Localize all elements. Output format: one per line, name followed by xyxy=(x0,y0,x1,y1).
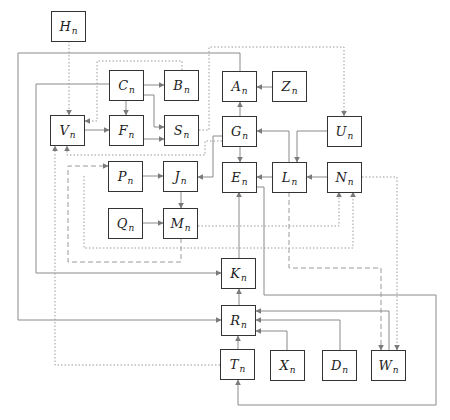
node-v: Vn xyxy=(50,115,85,146)
node-label: G xyxy=(231,124,241,139)
node-subscript: n xyxy=(393,365,399,375)
node-subscript: n xyxy=(184,85,190,95)
node-u: Un xyxy=(327,116,362,147)
node-subscript: n xyxy=(184,130,190,140)
node-k: Kn xyxy=(221,258,256,289)
node-label: N xyxy=(335,170,346,185)
node-subscript: n xyxy=(127,176,133,186)
node-m: Mn xyxy=(163,208,198,239)
node-s: Sn xyxy=(164,115,199,146)
node-label: M xyxy=(170,216,183,231)
node-subscript: n xyxy=(348,131,354,141)
node-label: F xyxy=(119,123,128,138)
node-subscript: n xyxy=(241,273,247,283)
node-x: Xn xyxy=(270,350,305,381)
node-label: Z xyxy=(282,79,291,94)
node-z: Zn xyxy=(272,71,307,102)
node-label: T xyxy=(230,357,239,372)
node-subscript: n xyxy=(290,365,296,375)
edge-n-to-w xyxy=(362,177,397,350)
node-subscript: n xyxy=(70,130,76,140)
node-subscript: n xyxy=(72,26,78,36)
node-label: H xyxy=(59,19,70,34)
node-label: S xyxy=(174,123,183,138)
node-label: W xyxy=(378,358,391,373)
node-subscript: n xyxy=(181,176,187,186)
node-subscript: n xyxy=(128,223,134,233)
node-subscript: n xyxy=(241,320,247,330)
node-label: K xyxy=(230,266,240,281)
edge-m-to-n xyxy=(198,192,339,226)
edge-c-to-s xyxy=(144,95,164,127)
edge-l-to-w xyxy=(289,192,381,350)
edge-x-to-r xyxy=(256,331,287,350)
node-subscript: n xyxy=(348,177,354,187)
node-n: Nn xyxy=(327,162,362,193)
edge-l-to-g xyxy=(257,131,289,162)
node-subscript: n xyxy=(129,130,135,140)
node-l: Ln xyxy=(272,162,307,193)
node-c: Cn xyxy=(109,70,144,101)
node-subscript: n xyxy=(239,364,245,374)
node-label: P xyxy=(118,169,127,184)
node-h: Hn xyxy=(51,11,86,42)
node-label: Q xyxy=(117,216,128,231)
node-r: Rn xyxy=(221,305,256,336)
node-label: A xyxy=(231,79,240,94)
edge-u-to-l xyxy=(297,131,327,162)
node-b: Bn xyxy=(164,70,199,101)
node-label: X xyxy=(279,358,288,373)
node-subscript: n xyxy=(292,86,298,96)
node-label: B xyxy=(173,78,183,93)
node-j: Jn xyxy=(163,161,198,192)
node-subscript: n xyxy=(129,85,135,95)
node-d: Dn xyxy=(322,350,357,381)
node-subscript: n xyxy=(242,131,248,141)
node-p: Pn xyxy=(108,161,143,192)
node-label: E xyxy=(231,170,241,185)
node-t: Tn xyxy=(220,349,255,380)
node-subscript: n xyxy=(185,223,191,233)
edge-g-to-j xyxy=(198,136,222,177)
node-g: Gn xyxy=(222,116,257,147)
node-label: R xyxy=(230,313,240,328)
node-subscript: n xyxy=(291,177,297,187)
node-f: Fn xyxy=(109,115,144,146)
node-label: J xyxy=(174,169,179,184)
node-subscript: n xyxy=(342,365,348,375)
node-label: D xyxy=(331,358,341,373)
node-a: An xyxy=(222,71,257,102)
node-w: Wn xyxy=(371,350,406,381)
node-subscript: n xyxy=(242,86,248,96)
node-label: V xyxy=(59,123,68,138)
node-q: Qn xyxy=(108,208,143,239)
node-label: U xyxy=(336,124,347,139)
node-subscript: n xyxy=(242,177,248,187)
node-e: En xyxy=(222,162,257,193)
node-label: L xyxy=(282,170,291,185)
edge-d-to-r xyxy=(256,320,340,350)
node-label: C xyxy=(118,78,128,93)
